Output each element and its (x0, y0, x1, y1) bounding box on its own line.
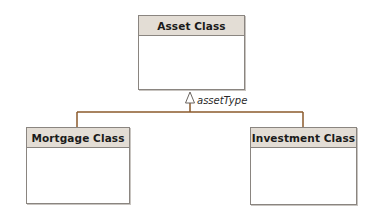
class-investment-title: Investment Class (251, 128, 356, 148)
class-investment[interactable]: Investment Class (250, 127, 357, 205)
generalization-label: assetType (197, 95, 247, 106)
class-mortgage[interactable]: Mortgage Class (26, 127, 130, 204)
inheritance-triangle-icon (186, 92, 195, 103)
class-mortgage-title: Mortgage Class (27, 128, 129, 148)
class-asset-title: Asset Class (139, 16, 244, 36)
class-asset[interactable]: Asset Class (138, 15, 245, 90)
